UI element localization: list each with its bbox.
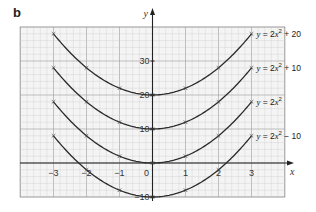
y-tick-label: −10 — [134, 192, 149, 202]
x-tick-label: 0 — [144, 168, 149, 178]
curve-label-1: y = 2x2 + 10 — [256, 62, 302, 73]
x-tick-label: 3 — [249, 168, 254, 178]
graph: yx −3−2−10123−10102030 y = 2x2 + 20y = 2… — [0, 0, 316, 212]
curve-label-0: y = 2x2 + 20 — [256, 28, 302, 39]
x-tick-label: 2 — [216, 168, 221, 178]
x-axis-arrow-icon — [287, 161, 294, 166]
x-tick-label: −3 — [48, 168, 58, 178]
y-tick-label: 10 — [139, 124, 149, 134]
x-axis-label: x — [289, 166, 295, 177]
y-tick-label: 30 — [139, 56, 149, 66]
x-tick-label: −2 — [81, 168, 91, 178]
curve-label-3: y = 2x2 − 10 — [256, 130, 302, 141]
x-tick-label: −1 — [114, 168, 124, 178]
x-tick-label: 1 — [183, 168, 188, 178]
curve-label-2: y = 2x2 — [256, 96, 283, 107]
y-axis-arrow-icon — [150, 8, 155, 15]
y-tick-label: 20 — [139, 90, 149, 100]
y-axis-label: y — [143, 8, 149, 19]
